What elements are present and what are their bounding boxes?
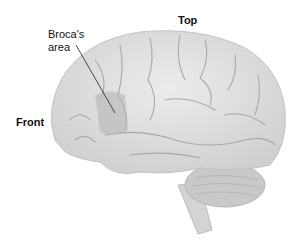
label-front: Front (16, 116, 44, 129)
label-top: Top (178, 14, 197, 27)
label-broca-line2: area (48, 41, 84, 54)
label-broca: Broca's area (48, 28, 84, 54)
cerebrum (51, 31, 285, 174)
broca-area-highlight (95, 92, 128, 135)
label-broca-line1: Broca's (48, 28, 84, 41)
